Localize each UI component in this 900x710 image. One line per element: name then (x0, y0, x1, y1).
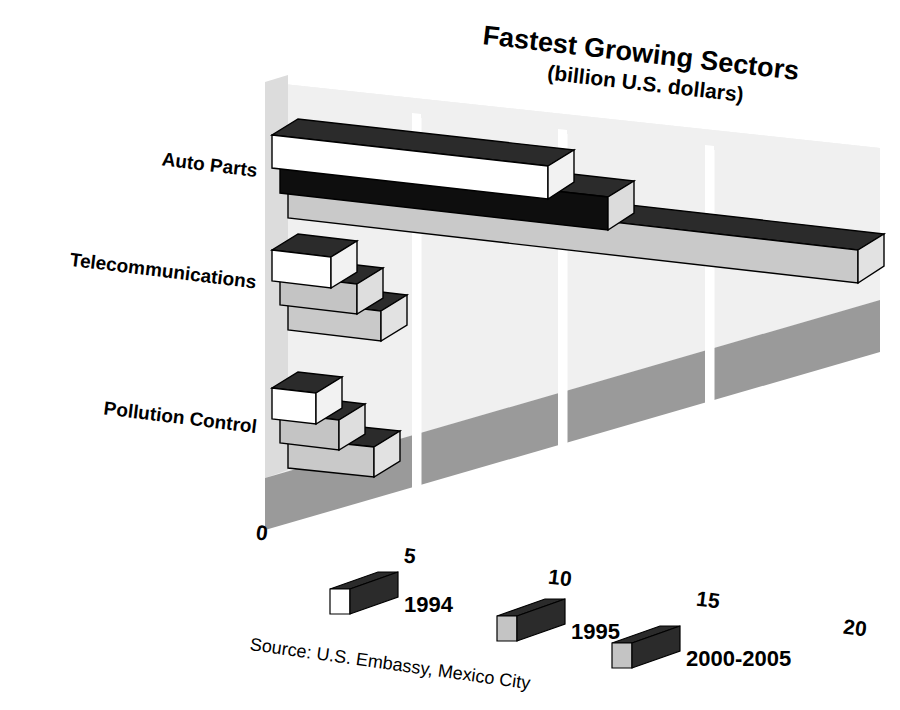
tick-label-15: 15 (695, 587, 721, 613)
tick-label-20: 20 (842, 615, 868, 641)
tick-label-10-group: 10 (547, 565, 573, 591)
tick-label-10: 10 (547, 565, 573, 591)
tick-label-15-group: 15 (695, 587, 721, 613)
legend-label-2000-2005: 2000-2005 (686, 646, 791, 671)
legend-label-1994: 1994 (404, 592, 454, 617)
legend-label-1995: 1995 (571, 619, 620, 644)
chart-container: Fastest Growing Sectors (billion U.S. do… (0, 0, 900, 710)
fastest-growing-sectors-chart: Fastest Growing Sectors (billion U.S. do… (0, 0, 900, 710)
bar-telecom-1994 (272, 234, 357, 288)
tick-label-20-group: 20 (842, 615, 868, 641)
